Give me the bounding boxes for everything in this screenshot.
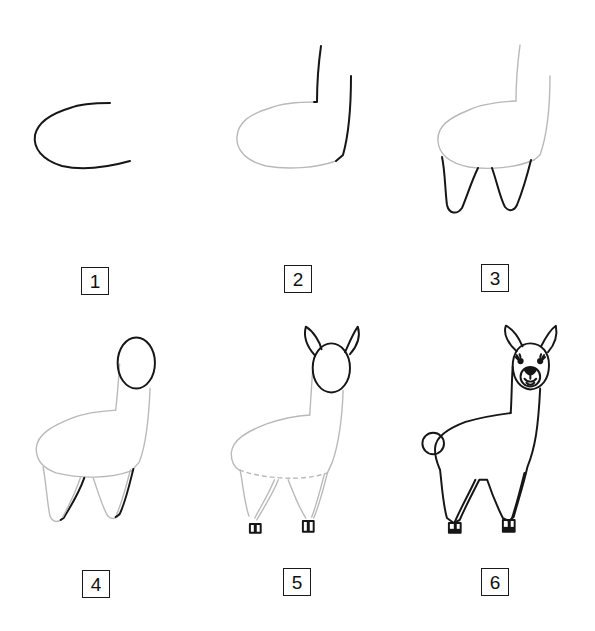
belly-dashed-line [239, 470, 327, 478]
step-number: 6 [490, 573, 501, 592]
neck-guide-front [131, 389, 150, 471]
neck-guide-front [327, 390, 343, 472]
step-number-box: 5 [283, 568, 311, 596]
step-4: 4 [0, 310, 198, 625]
hooves [449, 520, 515, 533]
back-leg-guide-left [257, 480, 279, 520]
step-number: 5 [292, 573, 303, 592]
front-leg-guide-left [240, 470, 249, 516]
step-number: 1 [90, 272, 101, 291]
step-number-box: 1 [81, 267, 109, 295]
nose [523, 367, 537, 376]
step-number-box: 6 [481, 568, 509, 596]
front-leg-inner-right [512, 473, 525, 519]
front-leg-guide-right [288, 480, 306, 518]
body-guide [438, 101, 534, 168]
hoof-right-a [303, 521, 308, 532]
head-oval [313, 343, 350, 392]
teeth [526, 383, 534, 385]
neck-guide-back [516, 45, 520, 101]
body-curve [35, 103, 130, 168]
front-leg-guide-right [93, 478, 119, 519]
body-outline [435, 389, 540, 523]
neck-front-line [336, 76, 351, 161]
front-leg-inner-left [455, 480, 476, 522]
back-leg-guide-left-inner [255, 480, 275, 518]
eye-right-icon [537, 354, 545, 364]
step-number-box: 2 [284, 265, 312, 293]
hoof-left-b [256, 524, 261, 533]
back-leg-left-inner [63, 478, 81, 517]
step-number: 3 [490, 269, 501, 288]
step-number-box: 3 [481, 264, 509, 292]
neck-back-line [314, 46, 321, 102]
hoof-right-b [309, 521, 314, 532]
body-guide [36, 410, 131, 477]
body-guide [237, 102, 336, 168]
mouth [524, 376, 536, 382]
step-number: 2 [293, 270, 304, 289]
back-leg-guide-right [314, 473, 328, 518]
hoof-left-a [250, 524, 255, 533]
step-1: 1 [0, 0, 198, 315]
head-oval [118, 337, 155, 388]
step-3: 3 [397, 0, 595, 315]
step-2: 2 [198, 0, 396, 315]
neck-back [511, 367, 513, 413]
front-leg-guide-left [43, 467, 63, 521]
step-6: 6 [397, 310, 595, 625]
back-leg-guide-right-inner [312, 474, 325, 517]
step-number-box: 4 [82, 570, 110, 598]
step-5: 5 [198, 310, 396, 625]
neck-guide-back [310, 369, 313, 415]
body-guide [231, 415, 310, 470]
step-number: 4 [91, 575, 102, 594]
neck-guide-front [534, 76, 550, 160]
ear-right [345, 327, 359, 354]
eye-left-icon [516, 354, 524, 364]
